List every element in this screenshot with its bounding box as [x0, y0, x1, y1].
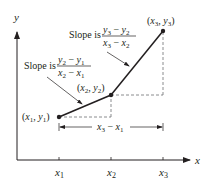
- svg-text:x2 − x1: x2 − x1: [57, 67, 85, 80]
- segment-1: [59, 95, 111, 117]
- tick-label-x1: x1: [54, 166, 64, 180]
- point-1: [57, 115, 61, 119]
- svg-text:Slope is: Slope is: [69, 29, 101, 40]
- point-label-2: (x2, y2): [77, 82, 105, 95]
- svg-text:y2 − y1: y2 − y1: [57, 54, 85, 67]
- y-axis-label: y: [13, 11, 19, 23]
- point-label-3: (x3, y3): [147, 15, 175, 28]
- tick-label-x2: x2: [106, 166, 116, 180]
- dimension-x3-minus-x1: x3 − x1: [59, 121, 163, 134]
- slope-diagram: y x x1 x2 x3 (x1, y1) (x2, y2) (x3, y3) …: [0, 0, 211, 184]
- svg-text:x3 − x1: x3 − x1: [96, 121, 124, 134]
- x-axis-label: x: [194, 154, 200, 166]
- tick-label-x3: x3: [158, 166, 168, 180]
- point-label-1: (x1, y1): [22, 111, 50, 124]
- svg-text:Slope is: Slope is: [24, 60, 56, 71]
- svg-text:y3 − y2: y3 − y2: [102, 24, 130, 37]
- svg-text:x3 − x2: x3 − x2: [102, 37, 130, 50]
- point-3: [161, 29, 165, 33]
- point-2: [109, 93, 113, 97]
- pointer-arrow-2: [107, 52, 129, 66]
- slope-label-1: Slope is y2 − y1 x2 − x1: [24, 54, 91, 104]
